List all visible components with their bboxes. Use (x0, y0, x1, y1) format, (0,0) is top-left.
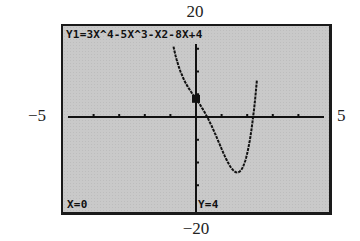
calculator-graph-screen: Y1=3X^4-5X^3-X2-8X+4 X=0 Y=4 (61, 24, 332, 215)
function-curve (174, 47, 257, 173)
trace-x-value: X=0 (67, 199, 87, 210)
window-xmax-label: 5 (337, 107, 346, 124)
trace-cursor-icon (192, 95, 200, 103)
window-xmin-label: −5 (28, 107, 46, 124)
window-ymin-label: −20 (176, 220, 216, 237)
trace-y-value: Y=4 (198, 199, 218, 210)
window-ymax-label: 20 (180, 3, 210, 20)
equation-label: Y1=3X^4-5X^3-X2-8X+4 (66, 29, 202, 40)
graph-plot (63, 26, 329, 212)
